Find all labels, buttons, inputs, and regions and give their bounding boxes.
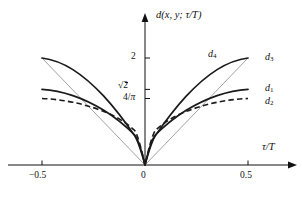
x-tick-label-pos05: 0.5 xyxy=(240,171,252,181)
curve-label-d4-sub: 4 xyxy=(213,52,217,60)
curve-label-d2: d2 xyxy=(265,96,274,107)
sqrt-glyph: √2 xyxy=(118,81,128,91)
y-axis-title-text: d(x, y; τ/T) xyxy=(156,9,201,20)
x-tick-label-zero: 0 xyxy=(141,171,146,181)
x-axis xyxy=(8,161,297,169)
y-tick-label-sqrt2: √2 xyxy=(118,81,128,91)
fraction-denominator: π xyxy=(130,92,135,102)
plot-canvas xyxy=(0,0,302,197)
y-axis xyxy=(142,13,150,165)
y-axis-title: d(x, y; τ/T) xyxy=(156,10,201,21)
curve-label-d3: d3 xyxy=(265,52,274,63)
curve-label-d1: d1 xyxy=(265,83,274,94)
x-axis-title: τ/T xyxy=(262,142,275,153)
x-axis-title-text: τ/T xyxy=(262,141,275,152)
curve-label-d3-sub: 3 xyxy=(270,55,274,63)
y-tick-label-2: 2 xyxy=(131,52,136,62)
curve-label-d4: d4 xyxy=(208,49,217,60)
y-tick-label-4pi: 4/π xyxy=(123,93,135,103)
x-tick-label-neg05: −0.5 xyxy=(29,171,46,181)
curve-label-d1-sub: 1 xyxy=(270,86,274,94)
plot-figure: d(x, y; τ/T) τ/T −0.5 0 0.5 2 √2 4/π d4 … xyxy=(0,0,302,197)
curve-label-d2-sub: 2 xyxy=(270,99,274,107)
